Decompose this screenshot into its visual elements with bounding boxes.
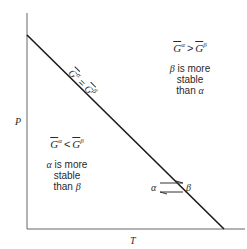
region-alpha-text-line3: than β (32, 181, 102, 192)
diagram-canvas (0, 0, 247, 249)
region-alpha-text-line1: α is more (32, 159, 102, 170)
region-alpha-text-line2: stable (32, 170, 102, 181)
x-axis-label: T (130, 235, 136, 246)
region-beta-text-line1: β is more (155, 63, 225, 74)
equilibrium-beta-label: β (186, 182, 191, 193)
equilibrium-alpha-label: α (151, 182, 156, 193)
region-beta-text-line2: stable (155, 74, 225, 85)
region-alpha-stable: Gα<Gβ α is more stable than β (32, 136, 102, 192)
y-axis-label: P (15, 116, 21, 127)
region-beta-inequality: Gα>Gβ (155, 40, 225, 54)
region-alpha-inequality: Gα<Gβ (32, 136, 102, 150)
equilibrium-arrows-icon (160, 181, 183, 194)
region-beta-text-line3: than α (155, 85, 225, 96)
region-beta-stable: Gα>Gβ β is more stable than α (155, 40, 225, 96)
